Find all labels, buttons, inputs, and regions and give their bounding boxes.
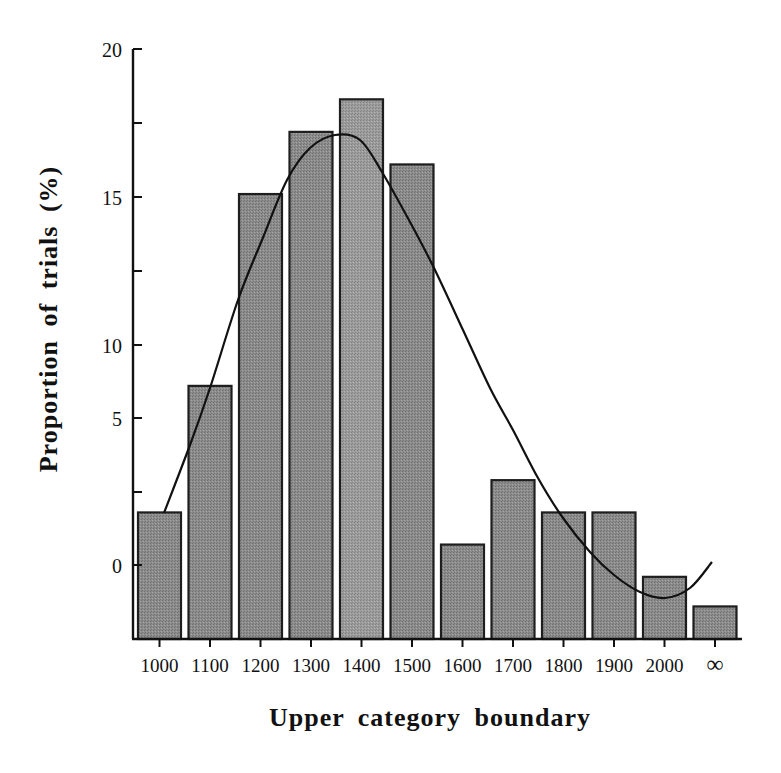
bar-1500 (391, 164, 434, 639)
x-tick-label-1500: 1500 (393, 655, 431, 676)
y-tick-label-20: 20 (102, 39, 122, 61)
y-tick-label-0: 0 (112, 555, 122, 577)
bar-1000 (138, 512, 181, 639)
bar-2000 (643, 577, 686, 639)
y-tick-label-15: 15 (102, 187, 122, 209)
x-tick-label-1200: 1200 (242, 655, 280, 676)
x-tick-label-1300: 1300 (292, 655, 330, 676)
bars-group (138, 99, 737, 639)
x-tick-label-1700: 1700 (494, 655, 532, 676)
x-tick-label-1100: 1100 (191, 655, 228, 676)
x-tick-label-1600: 1600 (444, 655, 482, 676)
chart: 20 15 10 5 0 100011001200130014001500160… (0, 0, 781, 773)
bar-1200 (239, 194, 282, 639)
x-tick-label-2000: 2000 (646, 655, 684, 676)
bar-1300 (290, 132, 333, 639)
y-tick-label-5: 5 (112, 408, 122, 430)
bar-1600 (441, 545, 484, 639)
bar-1800 (542, 512, 585, 639)
bar-1700 (492, 480, 535, 639)
x-axis-title: Upper category boundary (269, 703, 591, 732)
x-tick-label-1800: 1800 (545, 655, 583, 676)
bar-1400 (340, 99, 383, 639)
x-tick-labels: 1000110012001300140015001600170018001900… (141, 651, 724, 677)
y-tick-label-10: 10 (102, 335, 122, 357)
x-tick-label-1000: 1000 (141, 655, 179, 676)
bar-1100 (189, 386, 232, 639)
y-tick-labels: 20 15 10 5 0 (102, 39, 122, 577)
y-axis-title: Proportion of trials (%) (34, 166, 63, 473)
x-tick-label-infinity: ∞ (706, 651, 723, 677)
x-tick-label-1900: 1900 (595, 655, 633, 676)
bar-infinity (694, 606, 737, 639)
y-ticks (133, 49, 142, 565)
x-tick-label-1400: 1400 (343, 655, 381, 676)
